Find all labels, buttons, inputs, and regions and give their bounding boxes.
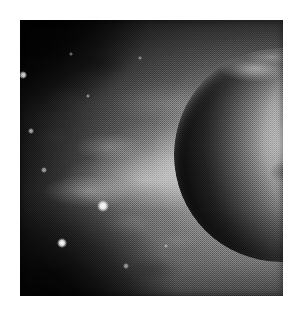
limb-flare-core-icon <box>238 44 283 70</box>
page-root <box>0 0 301 315</box>
star-point <box>97 200 109 212</box>
star-point <box>20 71 27 79</box>
astronomical-photograph <box>20 20 283 296</box>
star-point <box>123 263 128 268</box>
star-point <box>41 167 46 172</box>
star-point <box>86 94 91 99</box>
star-point <box>69 52 73 56</box>
star-point <box>138 56 143 61</box>
star-point <box>28 128 33 133</box>
star-point <box>164 244 169 249</box>
star-point <box>57 238 67 248</box>
